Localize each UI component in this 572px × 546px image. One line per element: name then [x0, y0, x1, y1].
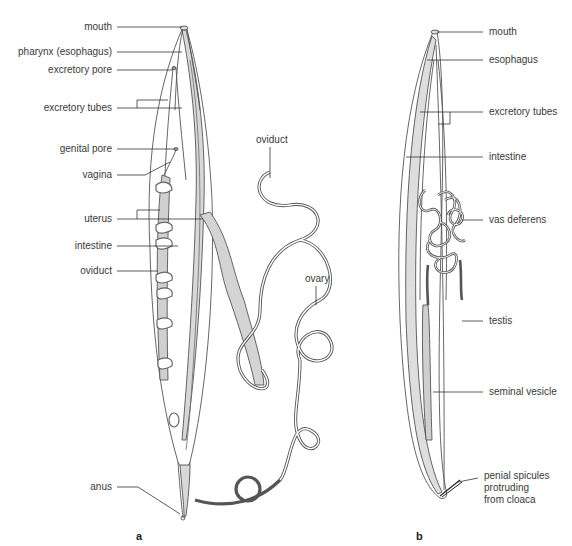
label-oviduct-left: oviduct: [80, 265, 112, 277]
label-excretory-pore: excretory pore: [48, 64, 112, 76]
label-genital-pore: genital pore: [60, 143, 112, 155]
label-mouth-a: mouth: [84, 21, 112, 33]
label-excretory-tubes-a: excretory tubes: [44, 102, 112, 114]
label-seminal-vesicle: seminal vesicle: [489, 386, 557, 398]
label-spicules-line1: penial spicules: [484, 470, 550, 482]
label-oviduct-top: oviduct: [256, 134, 288, 146]
label-spicules-line2: protruding: [484, 482, 529, 494]
label-anus: anus: [90, 481, 112, 493]
label-vas-deferens: vas deferens: [489, 214, 546, 226]
label-pharynx: pharynx (esophagus): [18, 46, 112, 58]
label-mouth-b: mouth: [489, 26, 517, 38]
label-spicules-line3: from cloaca: [484, 494, 536, 506]
oviduct-coils-inner: [238, 172, 332, 480]
label-vagina: vagina: [83, 169, 112, 181]
panel-letter-b: b: [416, 530, 423, 542]
label-uterus: uterus: [84, 213, 112, 225]
label-esophagus: esophagus: [489, 54, 538, 66]
male-worm-body: [399, 30, 462, 499]
panel-letter-a: a: [136, 530, 142, 542]
roundworm-anatomy-figure: mouth pharynx (esophagus) excretory pore…: [0, 0, 572, 546]
label-ovary: ovary: [305, 273, 329, 285]
label-intestine-a: intestine: [75, 240, 112, 252]
label-excretory-tubes-b: excretory tubes: [489, 106, 557, 118]
label-intestine-b: intestine: [489, 151, 526, 163]
label-testis: testis: [489, 315, 512, 327]
